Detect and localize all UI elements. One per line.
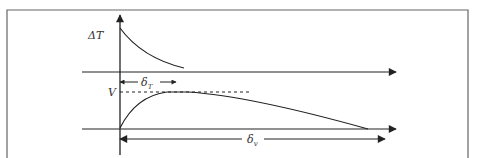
thermal-thickness-label: δT [141, 76, 154, 91]
velocity-profile-curve [120, 92, 368, 129]
temperature-profile-curve [120, 28, 184, 68]
v-level-label: V [108, 86, 117, 99]
figure-frame [7, 10, 468, 158]
delta-t-axis-label: ΔT [87, 29, 105, 42]
boundary-layer-diagram: ΔT V δT δv [0, 0, 478, 158]
